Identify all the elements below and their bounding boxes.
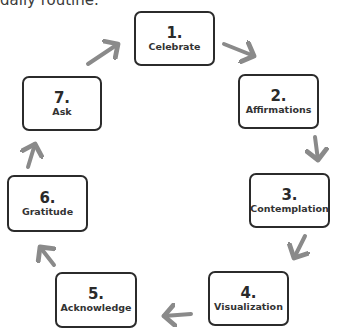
step-number: 3. xyxy=(281,187,297,203)
arrow-4-to-5 xyxy=(164,314,191,316)
step-number: 1. xyxy=(166,25,182,41)
step-number: 4. xyxy=(240,285,256,301)
step-label: Acknowledge xyxy=(60,302,131,314)
arrow-3-to-4 xyxy=(294,236,305,258)
arrow-6-to-7 xyxy=(28,144,35,167)
step-number: 5. xyxy=(88,286,104,302)
step-label: Ask xyxy=(52,106,71,118)
step-label: Contemplation xyxy=(250,203,329,215)
step-box-celebrate: 1. Celebrate xyxy=(134,11,215,66)
step-box-gratitude: 6. Gratitude xyxy=(7,175,88,232)
arrow-5-to-6 xyxy=(40,247,54,265)
step-box-contemplation: 3. Contemplation xyxy=(249,173,330,228)
step-box-affirmations: 2. Affirmations xyxy=(238,74,319,129)
step-label: Celebrate xyxy=(149,41,201,53)
step-label: Visualization xyxy=(214,301,283,313)
arrow-2-to-3 xyxy=(315,137,318,160)
arrow-1-to-2 xyxy=(224,44,254,56)
step-box-acknowledge: 5. Acknowledge xyxy=(55,272,137,328)
step-label: Affirmations xyxy=(246,104,312,116)
step-label: Gratitude xyxy=(22,206,73,218)
step-number: 2. xyxy=(270,88,286,104)
step-number: 6. xyxy=(39,190,55,206)
step-box-visualization: 4. Visualization xyxy=(208,271,289,326)
step-box-ask: 7. Ask xyxy=(22,76,102,131)
step-number: 7. xyxy=(54,90,70,106)
arrow-7-to-1 xyxy=(88,44,118,64)
